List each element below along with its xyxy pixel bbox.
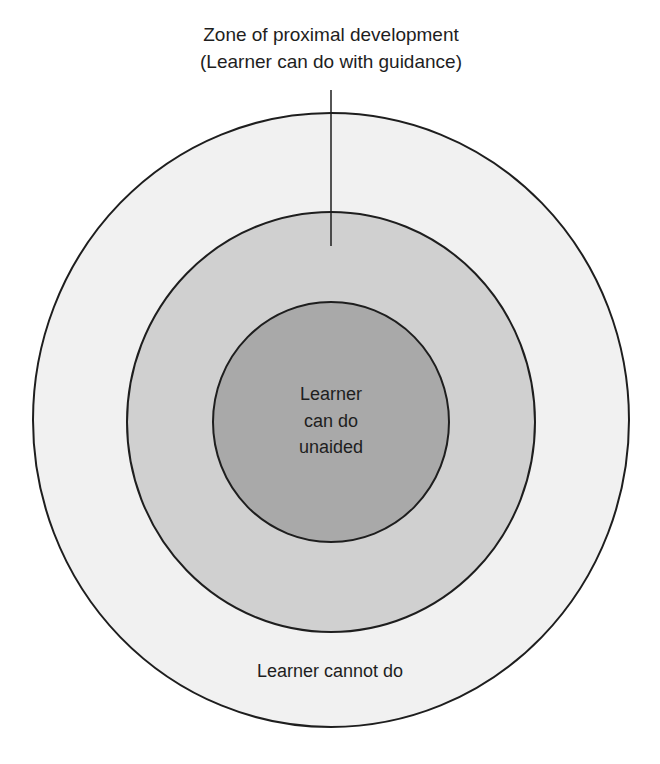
inner-label-line3: unaided — [299, 437, 363, 457]
zpd-label-line1: Zone of proximal development — [203, 24, 459, 45]
zpd-diagram: Zone of proximal development (Learner ca… — [0, 0, 660, 764]
outer-label: Learner cannot do — [257, 661, 403, 681]
inner-label-line2: can do — [304, 411, 358, 431]
zpd-label-line2: (Learner can do with guidance) — [200, 51, 462, 72]
inner-label-line1: Learner — [300, 384, 362, 404]
